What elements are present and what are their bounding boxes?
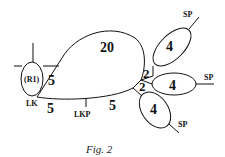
junction-weight-2: 2 (139, 79, 146, 94)
side-loop-middle-sp: SP (204, 73, 213, 82)
lk-label: LK (26, 99, 38, 108)
bottom-edge (37, 88, 133, 99)
side-loop-bottom-sp: SP (178, 120, 187, 129)
big-loop-weight: 20 (100, 40, 114, 55)
side-loop-top-weight: 4 (166, 39, 173, 54)
bottom-edge-weight-left: 5 (47, 101, 54, 116)
side-loop-middle-weight: 4 (169, 78, 176, 93)
ring-label: (R1) (24, 75, 39, 84)
figure-caption: Fig. 2 (85, 143, 113, 155)
diagonal-edge-weight: 5 (48, 73, 55, 88)
ring-r1 (14, 43, 59, 96)
feynman-diagram: (R1) 5 20 LK 5 LKP 5 2 2 4 SP 4 SP 4 SP … (0, 0, 225, 157)
bottom-edge-weight-right: 5 (109, 98, 116, 113)
side-loop-bottom-weight: 4 (150, 102, 157, 117)
side-loop-top-sp: SP (183, 10, 192, 19)
lkp-label: LKP (74, 110, 91, 119)
